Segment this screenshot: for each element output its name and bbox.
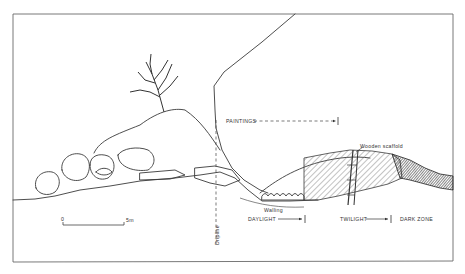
cave-section-diagram: Dripline PAINTINGS Wooden scaffold Walli…	[0, 0, 465, 274]
scale-end-label: 5m	[126, 217, 134, 223]
cave-roof-line	[214, 14, 295, 193]
daylight-label: DAYLIGHT	[248, 216, 276, 222]
scale-bar: 0 5m	[61, 216, 134, 225]
walling-label: Walling	[264, 207, 283, 213]
walling-stones-icon	[262, 194, 304, 201]
tree-icon	[130, 54, 178, 112]
talus-mound	[94, 109, 220, 153]
hatched-deposit-twilight	[304, 150, 402, 200]
cave-floor-line	[240, 198, 304, 207]
dripline-label: Dripline	[214, 225, 220, 245]
twilight-label: TWILIGHT	[340, 216, 368, 222]
hatched-deposit-dark-zone	[392, 154, 453, 190]
dark-zone-label: DARK ZONE	[400, 216, 433, 222]
paintings-label: PAINTINGS	[226, 118, 257, 124]
scale-start-label: 0	[61, 216, 64, 222]
boulders	[35, 148, 154, 195]
wooden-scaffold-label: Wooden scaffold	[360, 143, 403, 149]
